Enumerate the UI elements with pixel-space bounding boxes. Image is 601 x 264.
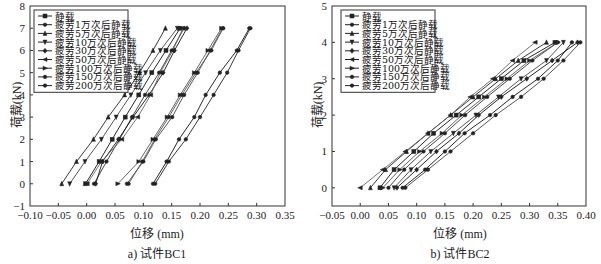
x-tick-label: 0.30 <box>247 209 267 221</box>
x-tick-label: 0.35 <box>548 209 568 221</box>
series-marker <box>163 26 167 31</box>
series-marker <box>556 59 560 63</box>
chart-bc1-ylabel: 荷载(kN) <box>7 75 25 135</box>
series-marker <box>167 115 171 119</box>
y-tick-label: 4 <box>322 36 328 48</box>
legend-marker <box>43 23 47 27</box>
series-marker <box>426 168 430 172</box>
x-tick-label: 0.15 <box>162 209 182 221</box>
series-marker <box>522 59 526 63</box>
series-marker <box>110 137 114 141</box>
series-marker <box>542 77 546 81</box>
y-tick-label: 8 <box>20 0 26 12</box>
series-marker <box>140 160 144 164</box>
series-marker <box>387 186 391 190</box>
y-tick-label: 6 <box>20 44 26 56</box>
legend: 静载疲劳1万次后静载疲劳5万次后静载疲劳10万次后静载疲劳30万次后静载疲劳50… <box>341 10 450 92</box>
series-marker <box>177 138 181 142</box>
y-tick-label: 0 <box>20 178 26 190</box>
series-marker <box>519 77 523 82</box>
series-marker <box>519 95 523 99</box>
legend-marker <box>350 75 354 79</box>
chart-bc2-caption: b) 试件BC2 <box>410 244 510 262</box>
y-tick-label: 2 <box>20 133 26 145</box>
series-marker <box>218 71 222 75</box>
x-tick-label: 0.35 <box>275 209 295 221</box>
x-tick-label: 0.20 <box>463 209 483 221</box>
legend-label: 疲劳200万次后静载 <box>55 80 143 91</box>
x-tick-label: −0.05 <box>319 209 345 221</box>
series-marker <box>443 150 447 154</box>
x-tick-label: 0.30 <box>520 209 540 221</box>
series-marker <box>249 26 253 30</box>
series-marker <box>237 49 241 53</box>
chart-bc2-xlabel: 位移 (mm) <box>410 224 510 242</box>
series-marker <box>525 76 529 81</box>
series-marker <box>212 93 216 97</box>
chart-bc1-caption: a) 试件BC1 <box>107 244 207 262</box>
series-marker <box>499 77 503 81</box>
series-marker <box>180 93 184 97</box>
series-marker <box>123 115 127 119</box>
series-marker <box>544 59 548 64</box>
series-marker <box>536 77 540 81</box>
series-marker <box>194 71 198 75</box>
series-marker <box>150 71 154 75</box>
series-marker <box>184 138 188 142</box>
legend: 静载疲劳1万次后静载疲劳5万次后静载疲劳10万次后静载疲劳30万次后静载疲劳50… <box>34 10 143 92</box>
series-marker <box>167 160 171 164</box>
x-tick-label: 0.20 <box>190 209 210 221</box>
series-marker <box>392 168 396 172</box>
series-marker <box>221 26 225 30</box>
legend-marker <box>350 14 354 18</box>
legend-marker <box>43 84 47 88</box>
series-marker <box>570 41 574 45</box>
x-tick-label: −0.05 <box>46 209 72 221</box>
x-tick-label: 0.15 <box>435 209 455 221</box>
series-marker <box>225 71 229 75</box>
x-tick-label: 0.00 <box>351 209 371 221</box>
legend-marker <box>350 84 354 88</box>
series-marker <box>454 113 458 117</box>
series-marker <box>135 115 140 119</box>
series-marker <box>105 160 109 164</box>
series-marker <box>432 131 436 135</box>
series-marker <box>204 93 208 97</box>
x-tick-label: 0.00 <box>77 209 97 221</box>
series-marker <box>477 95 481 99</box>
series-marker <box>143 93 147 97</box>
series-marker <box>451 131 455 136</box>
series-marker <box>198 115 202 119</box>
x-tick-label: 0.10 <box>407 209 427 221</box>
legend-marker <box>43 14 47 18</box>
x-tick-label: 0.05 <box>105 209 125 221</box>
series-marker <box>210 49 214 53</box>
legend-label: 疲劳200万次后静载 <box>362 80 450 91</box>
x-tick-label: 0.05 <box>379 209 399 221</box>
series-marker <box>579 41 583 45</box>
chart-bc2-ylabel: 荷载(kN) <box>308 75 326 135</box>
x-tick-label: 0.25 <box>492 209 512 221</box>
series-marker <box>404 186 408 190</box>
series-marker <box>127 182 131 186</box>
y-tick-label: −1 <box>13 200 25 212</box>
chart-bc2: −0.050.000.050.100.150.200.250.300.350.4… <box>300 0 601 264</box>
series-marker <box>544 40 548 45</box>
series-marker <box>164 48 168 52</box>
series-marker <box>137 93 141 97</box>
series-marker <box>516 58 520 63</box>
chart-bc1-xlabel: 位移 (mm) <box>107 224 207 242</box>
y-tick-label: 0 <box>322 182 328 194</box>
series-marker <box>68 182 72 187</box>
series-marker <box>471 131 475 135</box>
series-marker <box>562 59 566 63</box>
series-line <box>153 26 252 185</box>
legend-marker <box>43 75 47 79</box>
x-tick-label: 0.10 <box>134 209 154 221</box>
series-marker <box>412 149 416 153</box>
y-tick-label: 1 <box>20 156 26 168</box>
series-marker <box>153 138 157 142</box>
series-marker <box>193 115 197 119</box>
y-tick-label: 7 <box>20 22 26 34</box>
series-marker <box>358 186 363 190</box>
